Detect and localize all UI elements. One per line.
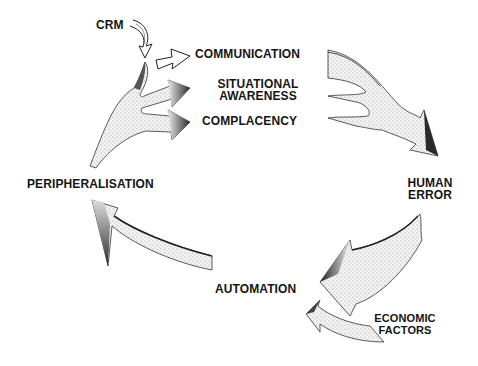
communication-label: COMMUNICATION xyxy=(195,48,300,60)
to-human-error-arrow-icon xyxy=(328,50,438,156)
crm-arrow-icon xyxy=(130,20,152,58)
peripheralisation-branch-arrow-icon xyxy=(90,62,190,168)
situational-awareness-line2: AWARENESS xyxy=(208,90,308,102)
human-error-label: HUMAN ERROR xyxy=(398,177,462,201)
complacency-label: COMPLACENCY xyxy=(202,115,297,127)
crm-label: CRM xyxy=(96,19,124,31)
economic-factors-label: ECONOMIC FACTORS xyxy=(370,312,440,336)
human-error-to-automation-arrow-icon xyxy=(320,214,422,316)
situational-awareness-label: SITUATIONAL AWARENESS xyxy=(208,78,308,102)
automation-to-peripheralisation-arrow-icon xyxy=(92,200,212,270)
economic-factors-line1: ECONOMIC xyxy=(370,312,440,324)
automation-label: AUTOMATION xyxy=(215,283,296,295)
crm-to-communication-arrow-icon xyxy=(156,49,190,69)
human-error-line2: ERROR xyxy=(398,189,462,201)
peripheralisation-label: PERIPHERALISATION xyxy=(27,178,154,190)
economic-factors-line2: FACTORS xyxy=(370,324,440,336)
